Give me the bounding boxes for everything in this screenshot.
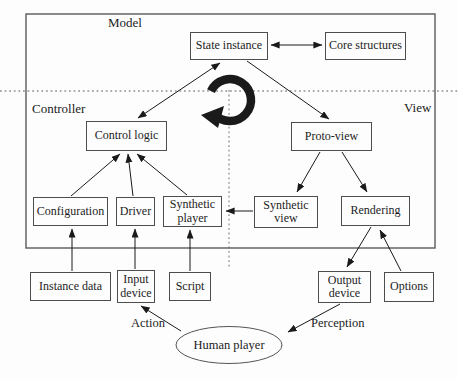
edge-options-rendering [380, 230, 401, 271]
node-script: Script [169, 272, 211, 301]
mvc-architecture-diagram: Model Controller View State instance Cor… [0, 0, 458, 379]
edge-protoview-rendering [342, 152, 367, 192]
node-synthetic-player: Synthetic player [163, 196, 222, 227]
edge-configuration-control [71, 154, 120, 196]
node-synthetic-view: Synthetic view [254, 196, 318, 228]
edge-rendering-outputdevice [347, 227, 371, 267]
node-driver: Driver [116, 197, 155, 226]
node-rendering: Rendering [341, 196, 410, 226]
node-human-player-label: Human player [169, 338, 289, 353]
node-output-device: Output device [318, 271, 371, 303]
node-options: Options [384, 272, 434, 302]
region-label-controller: Controller [32, 101, 85, 117]
edge-label-perception: Perception [311, 316, 364, 331]
node-core-structures: Core structures [325, 32, 406, 60]
node-state-instance: State instance [190, 32, 268, 60]
edge-driver-control [128, 154, 133, 196]
edge-protoview-syntheticview [297, 152, 320, 192]
edge-label-action: Action [131, 316, 165, 331]
node-control-logic: Control logic [86, 121, 167, 151]
node-instance-data: Instance data [30, 272, 111, 301]
edge-syntheticplayer-control [137, 154, 187, 195]
node-proto-view: Proto-view [291, 122, 372, 151]
node-configuration: Configuration [33, 197, 108, 226]
edge-state-protoview [247, 61, 329, 119]
cycle-arrow-icon [201, 79, 251, 128]
region-label-view: View [404, 100, 431, 116]
region-label-model: Model [108, 15, 142, 31]
node-input-device: Input device [117, 270, 155, 303]
